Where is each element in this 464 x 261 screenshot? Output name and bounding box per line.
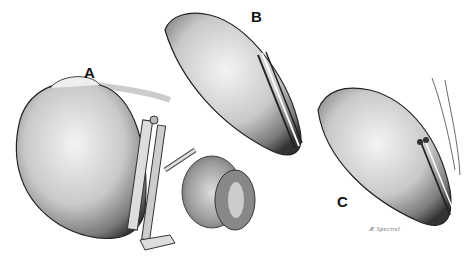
panel-label-b: B	[251, 8, 262, 25]
panel-label-c: C	[337, 193, 348, 210]
surgical-illustration: A B C Æ Spectrel	[0, 0, 464, 261]
artist-signature: Æ Spectrel	[369, 226, 400, 232]
illustration-drawing	[0, 0, 464, 261]
panel-label-a: A	[84, 64, 95, 81]
panel-b-drawing	[165, 13, 302, 155]
